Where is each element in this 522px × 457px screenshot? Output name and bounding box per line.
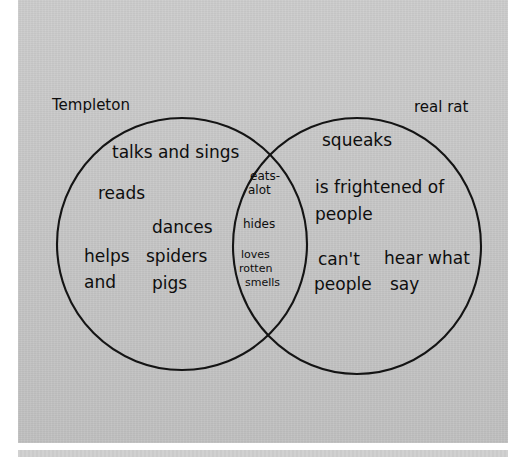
left-item-talks-and-sings: talks and sings: [112, 142, 239, 162]
right-item-cant: can't: [318, 249, 360, 269]
right-item-squeaks: squeaks: [322, 130, 392, 150]
overlap-item-loves-line1: loves: [241, 248, 270, 261]
right-item-people-1: people: [315, 204, 373, 224]
venn-diagram: Templeton real rat talks and sings reads…: [0, 0, 522, 457]
left-circle-label: Templeton: [51, 96, 130, 114]
left-item-dances: dances: [152, 217, 213, 237]
overlap-item-loves-line2: rotten: [239, 262, 272, 275]
right-circle-real-rat: [233, 118, 481, 374]
overlap-item-loves-line3: smells: [245, 276, 280, 289]
scanned-page: Templeton real rat talks and sings reads…: [0, 0, 522, 457]
right-item-say: say: [390, 274, 419, 294]
right-item-people-2: people: [314, 274, 372, 294]
right-circle-label: real rat: [414, 98, 469, 116]
overlap-item-eats-alot-line1: eats-: [250, 169, 280, 183]
left-item-spiders: spiders: [146, 246, 208, 266]
overlap-item-eats-alot-line2: alot: [248, 183, 271, 197]
right-item-is-frightened-of: is frightened of: [315, 177, 445, 197]
left-item-reads: reads: [98, 183, 145, 203]
left-item-helps: helps: [84, 246, 130, 266]
overlap-item-hides: hides: [243, 217, 275, 231]
left-item-and: and: [84, 272, 116, 292]
left-item-pigs: pigs: [152, 273, 187, 293]
right-item-hear-what: hear what: [384, 248, 470, 268]
